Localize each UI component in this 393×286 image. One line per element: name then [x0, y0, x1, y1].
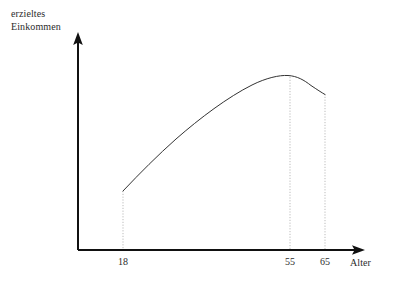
y-axis-label-line2: Einkommen	[11, 20, 61, 33]
x-axis-tick-label-65: 65	[312, 256, 338, 267]
x-axis-tick-label-55: 55	[277, 256, 303, 267]
x-axis-label: Alter	[350, 256, 371, 269]
x-axis-tick-label-18: 18	[110, 256, 136, 267]
y-axis-label-line1: erzieltes	[11, 7, 61, 20]
y-axis-label: erzieltes Einkommen	[11, 7, 61, 33]
income-curve	[123, 75, 325, 191]
income-age-chart	[0, 0, 393, 286]
